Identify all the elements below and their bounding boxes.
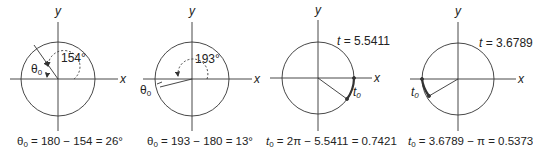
reference-angle-label: θ0 <box>140 84 151 98</box>
angle-label: 193° <box>195 53 220 65</box>
caption-3: t0 = 2π − 5.5411 = 0.7421 <box>266 136 397 149</box>
y-axis-label: y <box>315 4 321 16</box>
panel-1-diagram <box>10 22 118 131</box>
point-start <box>353 77 356 80</box>
panel-2-diagram <box>143 22 252 131</box>
y-axis-label: y <box>455 5 461 17</box>
terminal-side <box>429 79 458 96</box>
x-axis-label: x <box>120 73 126 85</box>
t0-label: t0 <box>353 86 361 100</box>
terminal-side <box>318 78 347 99</box>
theta0-pointer <box>157 82 162 84</box>
y-axis-label: y <box>55 5 61 17</box>
reference-angle-label: θ0 <box>31 63 42 77</box>
point-end <box>346 98 349 101</box>
t0-label: t0 <box>411 86 419 100</box>
point-end <box>428 95 431 98</box>
y-axis-label: y <box>189 5 195 17</box>
t-value-label: t = 3.6789 <box>479 37 533 49</box>
caption-2: θ0 = 193 − 180 = 13° <box>147 136 253 149</box>
terminal-side <box>160 79 192 87</box>
x-axis-label: x <box>518 73 524 85</box>
point-start <box>421 78 424 81</box>
x-axis-label: x <box>374 72 380 84</box>
caption-4: t0 = 3.6789 − π = 0.5373 <box>408 136 533 149</box>
t-value-label: t = 5.5411 <box>337 35 390 47</box>
angle-label: 154° <box>61 52 86 64</box>
x-axis-label: x <box>254 73 260 85</box>
caption-1: θ0 = 180 − 154 = 26° <box>17 136 123 149</box>
